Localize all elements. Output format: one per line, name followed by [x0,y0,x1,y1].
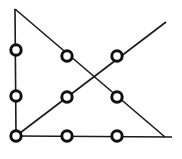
node-bottom-middle [62,131,72,141]
node-left-middle [11,91,21,101]
node-middle-right [112,92,122,102]
edges-group [15,9,172,137]
node-top-middle [62,51,72,61]
figure-container [0,0,182,159]
descending-diagonal-edge [15,9,165,137]
node-left-upper [11,45,21,55]
left-vertical-edge [15,9,16,136]
node-middle-center [62,92,72,102]
line-figure-diagram [0,0,182,159]
node-top-right [112,51,122,61]
node-left-bottom-corner [11,131,21,141]
bottom-horizontal-edge [16,136,172,137]
node-bottom-right [112,131,122,141]
